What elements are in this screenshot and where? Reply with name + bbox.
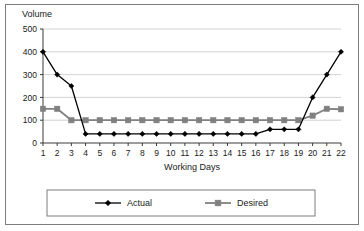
x-tick-label: 15 (237, 148, 247, 158)
x-tick-label: 12 (194, 148, 204, 158)
line-chart: 0100200300400500123456789101112131415161… (0, 0, 364, 231)
x-tick-label: 19 (294, 148, 304, 158)
chart-figure: 0100200300400500123456789101112131415161… (0, 0, 364, 231)
x-tick-label: 3 (69, 148, 74, 158)
data-point-desired (140, 118, 145, 123)
data-point-desired (168, 118, 173, 123)
legend-box (47, 190, 315, 216)
x-tick-label: 13 (209, 148, 219, 158)
data-point-desired (338, 107, 343, 112)
y-tick-label: 100 (23, 115, 37, 125)
y-tick-label: 0 (32, 138, 37, 148)
data-point-desired (225, 118, 230, 123)
data-point-desired (211, 118, 216, 123)
x-tick-label: 11 (180, 148, 189, 158)
x-axis-ticks: 12345678910111213141516171819202122 (41, 143, 346, 158)
data-point-desired (154, 118, 159, 123)
data-point-desired (253, 118, 258, 123)
data-point-desired (125, 118, 130, 123)
data-point-desired (196, 118, 201, 123)
x-tick-label: 10 (166, 148, 176, 158)
x-tick-label: 5 (97, 148, 102, 158)
plot-area-background (43, 29, 341, 143)
legend-marker-desired (215, 200, 221, 206)
x-tick-label: 2 (55, 148, 60, 158)
data-point-desired (69, 118, 74, 123)
legend-label-actual: Actual (127, 198, 152, 208)
x-tick-label: 16 (251, 148, 261, 158)
data-point-desired (267, 118, 272, 123)
x-tick-label: 4 (83, 148, 88, 158)
data-point-desired (54, 106, 59, 111)
data-point-desired (282, 118, 287, 123)
x-axis-title: Working Days (164, 162, 220, 172)
y-axis-title: Volume (22, 9, 52, 19)
x-tick-label: 8 (140, 148, 145, 158)
data-point-desired (111, 118, 116, 123)
y-tick-label: 200 (23, 93, 37, 103)
x-tick-label: 17 (265, 148, 275, 158)
legend: ActualDesired (47, 190, 315, 216)
y-tick-label: 500 (23, 24, 37, 34)
data-point-desired (310, 113, 315, 118)
x-tick-label: 9 (154, 148, 159, 158)
legend-label-desired: Desired (237, 198, 268, 208)
x-tick-label: 21 (322, 148, 332, 158)
x-tick-label: 1 (41, 148, 46, 158)
y-tick-label: 400 (23, 47, 37, 57)
data-point-desired (182, 118, 187, 123)
data-point-desired (239, 118, 244, 123)
x-tick-label: 20 (308, 148, 318, 158)
x-tick-label: 6 (112, 148, 117, 158)
x-tick-label: 22 (336, 148, 346, 158)
data-point-desired (83, 118, 88, 123)
data-point-desired (324, 106, 329, 111)
x-tick-label: 14 (223, 148, 233, 158)
y-tick-label: 300 (23, 70, 37, 80)
y-axis-ticks: 0100200300400500 (23, 24, 43, 148)
data-point-desired (40, 106, 45, 111)
data-point-desired (296, 118, 301, 123)
data-point-desired (97, 118, 102, 123)
x-tick-label: 18 (280, 148, 290, 158)
x-tick-label: 7 (126, 148, 131, 158)
